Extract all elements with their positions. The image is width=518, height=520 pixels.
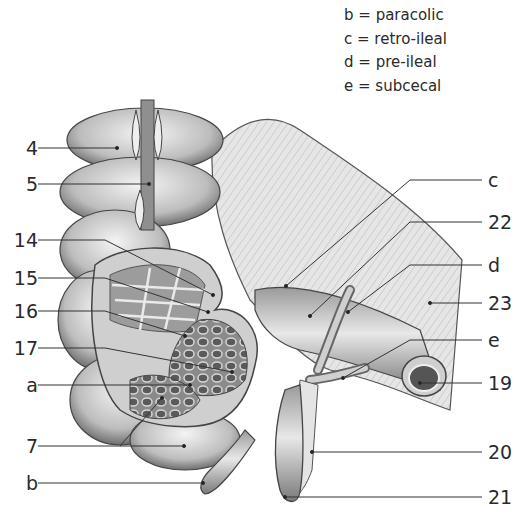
leader-7-b-dot [160, 396, 163, 399]
label-20: 20 [488, 442, 512, 462]
legend-item-d: d = pre-ileal [344, 51, 447, 75]
leader-20-dot [310, 450, 313, 453]
leader-7-dot [182, 444, 185, 447]
leader-e-dot [341, 376, 344, 379]
label-4: 4 [0, 138, 38, 158]
label-15: 15 [0, 268, 38, 288]
legend: b = paracolic c = retro-ileal d = pre-il… [344, 4, 447, 98]
leader-17-dot [230, 370, 233, 373]
legend-item-e: e = subcecal [344, 75, 447, 99]
label-5: 5 [0, 174, 38, 194]
label-19: 19 [488, 373, 512, 393]
leader-c-dot [284, 284, 287, 287]
leader-5-dot [147, 182, 150, 185]
label-22: 22 [488, 212, 512, 232]
leader-22-dot [308, 314, 311, 317]
label-7: 7 [0, 436, 38, 456]
label-a: a [0, 375, 38, 395]
label-e: e [488, 330, 500, 350]
leader-19-dot [418, 381, 421, 384]
leader-16-dot [183, 334, 186, 337]
leader-14-dot [211, 293, 214, 296]
leader-15-dot [206, 310, 209, 313]
leader-21-dot [283, 495, 286, 498]
label-14: 14 [0, 230, 38, 250]
opened-cecum [92, 248, 257, 426]
anatomy-figure: b = paracolic c = retro-ileal d = pre-il… [0, 0, 518, 520]
leader-a-dot [188, 383, 191, 386]
label-17: 17 [0, 338, 38, 358]
leader-b-dot [201, 481, 204, 484]
leader-23-dot [428, 301, 431, 304]
label-21: 21 [488, 487, 512, 507]
legend-item-b: b = paracolic [344, 4, 447, 28]
label-c: c [488, 170, 498, 190]
legend-item-c: c = retro-ileal [344, 28, 447, 52]
leader-d-dot [346, 310, 349, 313]
label-d: d [488, 255, 500, 275]
label-b: b [0, 473, 38, 493]
leader-4-dot [115, 146, 118, 149]
label-16: 16 [0, 301, 38, 321]
label-23: 23 [488, 293, 512, 313]
